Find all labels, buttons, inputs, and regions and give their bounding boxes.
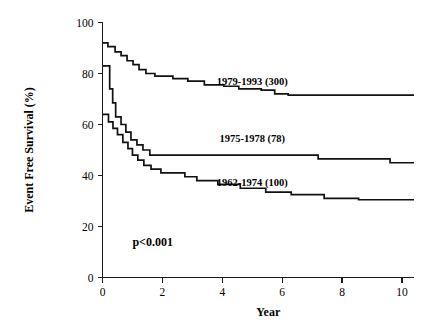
x-tick-label: 2 — [160, 286, 166, 298]
p-value-annotation: p<0.001 — [132, 235, 173, 249]
y-tick-label: 0 — [88, 272, 94, 284]
series-label: 1962-1974 (100) — [217, 177, 288, 189]
series-label: 1975-1978 (78) — [219, 133, 285, 145]
y-axis-title: Event Free Survival (%) — [22, 87, 36, 212]
series-label: 1979-1993 (300) — [217, 76, 288, 88]
x-axis-ticks: 0246810 — [100, 278, 408, 298]
x-tick-label: 10 — [396, 286, 408, 298]
y-tick-label: 40 — [82, 170, 94, 182]
x-tick-label: 4 — [219, 286, 225, 298]
series-labels: 1979-1993 (300)1975-1978 (78)1962-1974 (… — [217, 76, 288, 189]
chart-annotations: p<0.001 — [132, 235, 173, 249]
x-tick-label: 8 — [339, 286, 345, 298]
x-tick-label: 0 — [100, 286, 106, 298]
x-axis-title: Year — [256, 305, 281, 319]
survival-curve — [103, 43, 415, 95]
y-axis-ticks: 020406080100 — [76, 17, 102, 284]
km-chart-svg: 020406080100 0246810 1979-1993 (300)1975… — [0, 0, 439, 329]
y-tick-label: 60 — [82, 119, 94, 131]
y-tick-label: 80 — [82, 68, 94, 80]
x-tick-label: 6 — [279, 286, 285, 298]
y-tick-label: 100 — [76, 17, 94, 29]
y-tick-label: 20 — [82, 221, 94, 233]
km-survival-figure: 020406080100 0246810 1979-1993 (300)1975… — [0, 0, 439, 329]
